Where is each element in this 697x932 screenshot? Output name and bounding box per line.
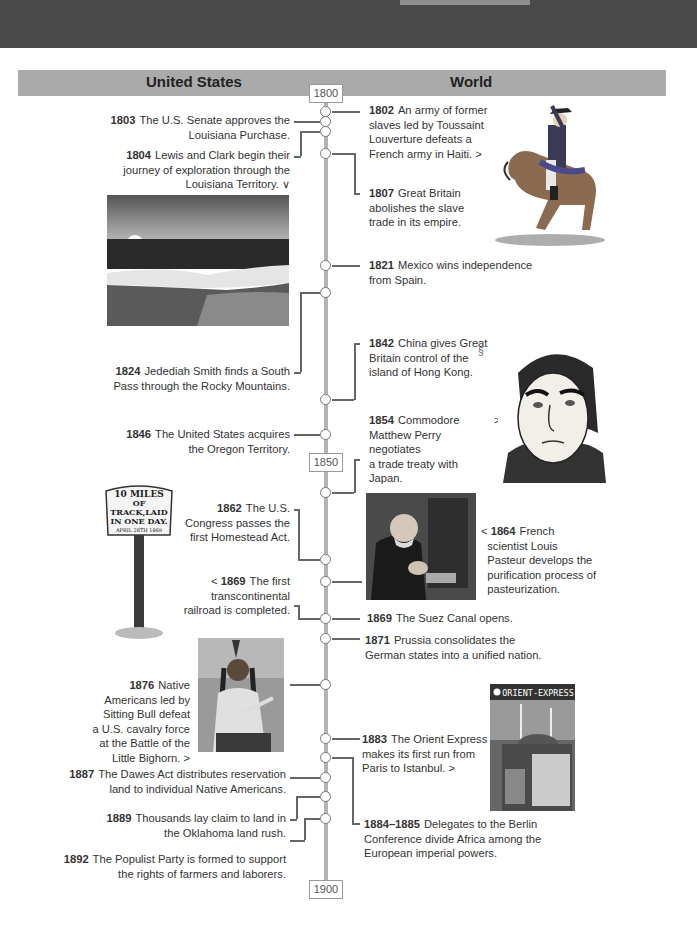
- toussaint-illustration: [490, 100, 608, 248]
- connector-1869-world: [332, 618, 360, 620]
- year-marker-1900: 1900: [309, 880, 343, 899]
- node-1876: [320, 679, 331, 690]
- connector-1854-v: [354, 459, 356, 493]
- connector-1821: [332, 265, 360, 267]
- svg-text:ORIENT-EXPRESS: ORIENT-EXPRESS: [502, 688, 574, 698]
- connector-1883: [332, 738, 360, 740]
- see-image-arrow: >: [475, 148, 482, 160]
- world-event-1807: 1807Great Britain abolishes the slave tr…: [369, 186, 489, 230]
- node-1846: [320, 429, 331, 440]
- year-marker-1850: 1850: [309, 453, 343, 472]
- connector-1869-v: [298, 605, 300, 619]
- connector-1854: [332, 492, 354, 494]
- us-event-1846: 1846The United States acquires the Orego…: [80, 427, 290, 456]
- connector-1884-t: [352, 823, 360, 825]
- railroad-sign-image: 10 MILES OF TRACK,LAID IN ONE DAY. APRIL…: [104, 483, 174, 643]
- us-event-1876: 1876Native Americans led by Sitting Bull…: [80, 678, 190, 765]
- us-event-1889: 1889Thousands lay claim to land in the O…: [60, 811, 286, 840]
- us-event-1824: 1824Jedediah Smith finds a South Pass th…: [60, 364, 290, 393]
- node-1807: [320, 148, 331, 159]
- connector-1876: [290, 684, 320, 686]
- header-united-states: United States: [146, 73, 242, 90]
- world-event-1869: 1869The Suez Canal opens.: [367, 611, 567, 626]
- calligraphy-mark: §: [478, 345, 484, 360]
- see-image-arrow: >: [448, 762, 455, 774]
- us-event-1887: 1887The Dawes Act distributes reservatio…: [40, 767, 286, 796]
- svg-text:IN ONE DAY.: IN ONE DAY.: [110, 516, 167, 526]
- node-1864: [320, 576, 331, 587]
- world-event-1842: 1842China gives Great Britain control of…: [369, 336, 489, 380]
- node-1884: [320, 752, 331, 763]
- connector-1807: [332, 153, 354, 155]
- connector-1892-t: [290, 840, 305, 842]
- connector-1824-v: [300, 292, 302, 372]
- sitting-bull-portrait: [198, 638, 284, 752]
- connector-1864: [332, 581, 362, 583]
- world-event-1821: 1821Mexico wins independence from Spain.: [369, 258, 549, 287]
- connector-1862-t: [294, 509, 299, 511]
- connector-1842-t: [354, 343, 360, 345]
- connector-1887: [290, 777, 320, 779]
- connector-1824: [300, 292, 320, 294]
- top-banner: [0, 0, 697, 48]
- connector-1842-v: [354, 343, 356, 400]
- world-event-1871: 1871Prussia consolidates the German stat…: [365, 633, 585, 662]
- connector-1807-t: [354, 193, 360, 195]
- see-image-arrow: <: [481, 525, 488, 537]
- pasteur-portrait: [366, 493, 476, 600]
- connector-1884-v: [352, 757, 354, 823]
- node-1892: [320, 813, 331, 824]
- world-event-1802: 1802An army of former slaves led by Tous…: [369, 103, 499, 161]
- node-1821: [320, 260, 331, 271]
- world-event-1884-1885: 1884–1885Delegates to the Berlin Confere…: [364, 817, 584, 861]
- connector-1803: [294, 121, 320, 123]
- node-1871: [320, 633, 331, 644]
- world-event-1854: 1854Commodore Matthew Perry negotiates a…: [369, 413, 494, 486]
- connector-1804-v: [300, 131, 302, 156]
- node-1883: [320, 733, 331, 744]
- node-1887: [320, 772, 331, 783]
- world-event-1883: 1883The Orient Express makes its first r…: [362, 732, 497, 776]
- node-1824: [320, 287, 331, 298]
- connector-1889: [296, 796, 320, 798]
- node-1854: [320, 487, 331, 498]
- us-event-1869: < 1869The first transcontinental railroa…: [160, 574, 290, 618]
- connector-1854-t: [354, 459, 360, 461]
- connector-1824-t: [294, 372, 301, 374]
- us-event-1803: 1803The U.S. Senate approves the Louisia…: [80, 113, 290, 142]
- connector-1804-t: [294, 156, 301, 158]
- connector-1846: [294, 434, 320, 436]
- node-1862: [320, 554, 331, 565]
- connector-1889-v: [296, 796, 298, 819]
- connector-1869-t: [294, 605, 299, 607]
- us-event-1862: 1862The U.S. Congress passes the first H…: [180, 501, 290, 545]
- connector-1884: [332, 757, 352, 759]
- river-landscape-photo: [107, 195, 289, 326]
- connector-1889-t: [290, 819, 297, 821]
- connector-1802: [332, 111, 360, 113]
- see-image-arrow: >: [183, 752, 190, 764]
- connector-1892-v: [304, 818, 306, 840]
- node-1869: [320, 613, 331, 624]
- connector-1862: [298, 559, 320, 561]
- header-world: World: [450, 73, 492, 90]
- svg-text:APRIL 28TH 1869: APRIL 28TH 1869: [115, 527, 162, 533]
- us-event-1892: 1892The Populist Party is formed to supp…: [30, 852, 286, 881]
- top-tab: [400, 0, 530, 5]
- orient-express-poster: ORIENT-EXPRESS: [490, 684, 575, 811]
- world-event-1864: < 1864French scientist Louis Pasteur dev…: [481, 524, 601, 597]
- node-1842: [320, 394, 331, 405]
- us-event-1804: 1804Lewis and Clark begin their journey …: [60, 148, 290, 192]
- see-image-arrow: ∨: [282, 178, 290, 190]
- connector-1892: [304, 818, 320, 820]
- year-marker-1800: 1800: [309, 84, 343, 103]
- connector-1807-v: [354, 153, 356, 193]
- connector-1871: [332, 638, 360, 640]
- connector-1842: [332, 399, 354, 401]
- see-image-arrow: <: [211, 575, 218, 587]
- connector-1869-us: [298, 618, 320, 620]
- connector-1804: [300, 131, 320, 133]
- connector-1862-v: [298, 509, 300, 560]
- node-1804: [320, 126, 331, 137]
- node-1889: [320, 791, 331, 802]
